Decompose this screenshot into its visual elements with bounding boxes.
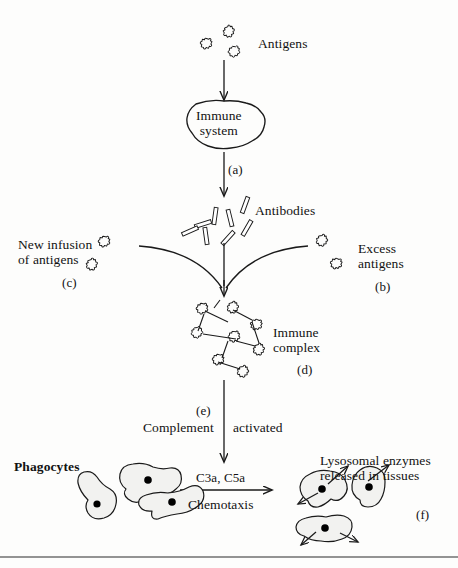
phagocyte-cell	[78, 472, 117, 519]
label-step-d: (d)	[297, 363, 312, 378]
label-step-b: (b)	[375, 280, 390, 295]
immune-complex-diagram: Antigens Immune system (a) Antibodies Ne…	[0, 0, 458, 568]
antibody-cluster	[181, 196, 252, 245]
label-step-a: (a)	[228, 163, 243, 178]
label-immune-system: Immune system	[196, 108, 242, 138]
phagocyte-nucleus	[144, 476, 152, 484]
label-step-e: (e)	[196, 404, 211, 419]
label-complement: Complement	[143, 420, 214, 435]
label-step-c: (c)	[62, 276, 77, 291]
label-chemotaxis: Chemotaxis	[188, 497, 254, 512]
antigen-cluster-top	[199, 24, 241, 58]
label-excess-antigens: Excess antigens	[358, 241, 404, 271]
curve-from-left-antigens	[139, 246, 222, 288]
label-lysosomal: Lysosomal enzymes released in tissues	[320, 453, 431, 483]
activated-cell-nucleus	[318, 485, 326, 493]
phagocyte-cells	[78, 463, 204, 519]
phagocyte-nucleus	[168, 498, 176, 506]
label-antigens: Antigens	[258, 36, 308, 51]
label-step-f: (f)	[416, 508, 429, 523]
phagocyte-nucleus	[93, 500, 100, 507]
label-new-infusion: New infusion of antigens	[18, 237, 92, 267]
label-c3a-c5a: C3a, C5a	[196, 471, 245, 486]
label-immune-complex: Immune complex	[273, 325, 320, 355]
label-antibodies: Antibodies	[255, 203, 315, 218]
immune-complex-lattice	[190, 300, 266, 378]
activated-cell-nucleus	[321, 524, 329, 532]
label-activated: activated	[233, 420, 283, 435]
antigen-cluster-right	[315, 234, 344, 271]
curve-from-right-antigens	[226, 246, 308, 288]
activated-cell-nucleus	[365, 483, 373, 491]
label-phagocytes: Phagocytes	[14, 459, 80, 474]
